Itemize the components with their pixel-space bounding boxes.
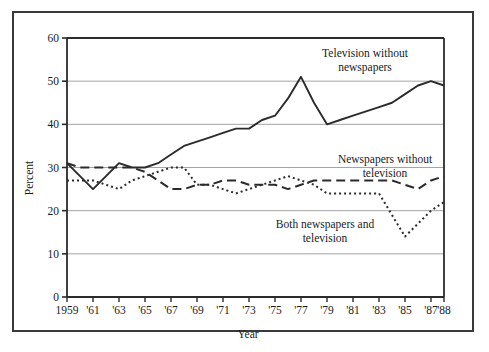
x-tick-label-1967: '67 (164, 304, 178, 316)
x-tick-label-1975: '75 (268, 304, 282, 316)
y-tick-label-40: 40 (48, 118, 60, 130)
x-tick-label-1971: '71 (216, 304, 230, 316)
y-tick-label-30: 30 (48, 162, 60, 174)
y-axis-title: Percent (23, 160, 35, 195)
line-chart: 0102030405060 1959'61'63'65'67'69'71'73'… (0, 0, 489, 352)
newspapers-without-television-label: Newspapers withouttelevision (338, 153, 433, 179)
x-tick-label-1979: '79 (320, 304, 334, 316)
x-tick-label-1969: '69 (190, 304, 204, 316)
x-tick-label-1985: '85 (398, 304, 412, 316)
y-tick-label-20: 20 (48, 205, 60, 217)
figure-container: 0102030405060 1959'61'63'65'67'69'71'73'… (0, 0, 489, 352)
television-without-newspapers-label: Television withoutnewspapers (322, 47, 409, 74)
x-axis-title: Year (237, 328, 258, 340)
x-tick-label-1983: '83 (372, 304, 386, 316)
x-tick-label-1963: '63 (112, 304, 126, 316)
annotations-group: Television withoutnewspapersNewspapers w… (276, 47, 433, 244)
y-axis: 0102030405060 (48, 32, 68, 303)
both-newspapers-and-television-label: Both newspapers andtelevision (276, 218, 375, 244)
y-tick-label-60: 60 (48, 32, 60, 44)
x-tick-label-1981: '81 (346, 304, 360, 316)
x-tick-label-1977: '77 (294, 304, 308, 316)
x-tick-label-1973: '73 (242, 304, 256, 316)
x-tick-label-1959: 1959 (56, 304, 79, 316)
y-tick-label-0: 0 (53, 291, 59, 303)
x-tick-label-1988: '88 (437, 304, 451, 316)
x-tick-label-1987: '87 (424, 304, 438, 316)
x-tick-label-1961: '61 (86, 304, 100, 316)
x-tick-label-1965: '65 (138, 304, 152, 316)
y-tick-label-50: 50 (48, 75, 60, 87)
y-tick-label-10: 10 (48, 248, 60, 260)
